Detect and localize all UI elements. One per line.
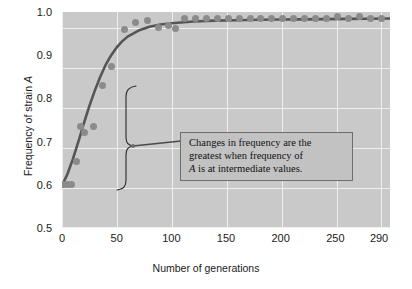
data-point [90, 123, 97, 130]
data-point [203, 15, 210, 22]
data-point [323, 15, 330, 22]
data-point [225, 15, 232, 22]
x-tick-label: 0 [59, 232, 65, 244]
data-point [165, 22, 172, 29]
x-tick-label: 200 [271, 232, 289, 244]
data-point-layer [62, 12, 390, 228]
x-tick-label: 50 [111, 232, 123, 244]
data-point [108, 63, 115, 70]
x-axis-title: Number of generations [0, 262, 412, 274]
data-point [144, 17, 151, 24]
data-point [236, 15, 243, 22]
y-tick-label: 0.9 [37, 49, 52, 61]
data-point [301, 15, 308, 22]
data-point [334, 13, 341, 20]
annotation-textbox: Changes in frequency are the greatest wh… [180, 132, 353, 181]
y-axis-title-italic: A [22, 76, 34, 83]
y-tick-label: 0.8 [37, 92, 52, 104]
data-point [68, 181, 75, 188]
data-point [214, 15, 221, 22]
x-tick-label: 290 [370, 232, 388, 244]
data-point [247, 15, 254, 22]
data-point [345, 15, 352, 22]
data-point [121, 26, 128, 33]
data-point [181, 15, 188, 22]
data-point [279, 15, 286, 22]
annotation-line-3-rest: is at intermediate values. [195, 163, 302, 174]
x-tick-label: 250 [326, 232, 344, 244]
x-tick-label: 100 [162, 232, 180, 244]
plot-area [62, 12, 390, 228]
y-tick-label: 1.0 [37, 6, 52, 18]
y-tick-label: 0.7 [37, 136, 52, 148]
annotation-line-1: Changes in frequency are the [189, 137, 345, 150]
data-point [132, 19, 139, 26]
data-point [356, 13, 363, 20]
x-tick-label: 150 [217, 232, 235, 244]
x-axis-tick-labels: 050100150200250290 [0, 232, 412, 248]
data-point [81, 129, 88, 136]
y-axis-title: Frequency of strain A [22, 36, 34, 216]
annotation-line-2: greatest when frequency of [189, 150, 345, 163]
data-point [312, 15, 319, 22]
y-tick-label: 0.6 [37, 179, 52, 191]
data-point [155, 24, 162, 31]
data-point [172, 25, 179, 32]
data-point [73, 158, 80, 165]
y-axis-title-text: Frequency of strain [22, 83, 34, 176]
data-point [290, 15, 297, 22]
data-point [378, 15, 385, 22]
data-point [257, 15, 264, 22]
data-point [99, 82, 106, 89]
chart-figure: 0.50.60.70.80.91.0 Frequency of strain A… [0, 0, 412, 289]
data-point [367, 15, 374, 22]
data-point [192, 15, 199, 22]
data-point [268, 15, 275, 22]
annotation-line-3: A is at intermediate values. [189, 163, 345, 176]
